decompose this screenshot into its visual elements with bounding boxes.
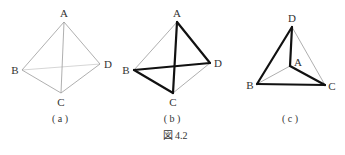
vertex-label-b: B	[122, 64, 129, 76]
edge-ca-highlighted	[173, 22, 177, 93]
edge-ab	[22, 22, 64, 70]
vertex-label-d: D	[104, 58, 112, 70]
edge-bd-highlighted	[257, 27, 292, 84]
edge-ad-highlighted	[177, 22, 210, 63]
vertex-label-c: C	[328, 80, 335, 92]
edge-bc-highlighted	[134, 70, 173, 93]
panel-sublabel-b: ( b )	[164, 113, 181, 125]
figure-4-2: A B C D ( a ) A B C D ( b )	[0, 0, 345, 155]
vertex-label-a: A	[294, 56, 302, 68]
panel-b: A B C D ( b )	[122, 7, 222, 125]
vertex-label-d: D	[288, 12, 296, 24]
vertex-label-b: B	[11, 64, 18, 76]
vertex-label-c: C	[57, 96, 64, 108]
panel-sublabel-a: ( a )	[52, 113, 68, 125]
edge-bd-hidden	[22, 64, 100, 70]
vertex-label-d: D	[214, 57, 222, 69]
vertex-label-a: A	[60, 7, 68, 19]
edge-ab	[134, 22, 177, 70]
panel-a: A B C D ( a )	[11, 7, 112, 125]
edge-cd	[173, 63, 210, 93]
panel-sublabel-c: ( c )	[282, 113, 298, 125]
tetrahedron-diagram: A B C D ( a ) A B C D ( b )	[0, 0, 345, 155]
figure-caption: 図 4.2	[163, 130, 188, 141]
edge-db-highlighted	[134, 63, 210, 70]
vertex-label-a: A	[173, 7, 181, 19]
edge-ac	[61, 22, 64, 93]
vertex-label-b: B	[246, 79, 253, 91]
vertex-label-c: C	[169, 96, 176, 108]
edge-cb-highlighted	[257, 84, 325, 85]
edge-bc	[22, 70, 61, 93]
edge-cd	[61, 64, 100, 93]
panel-c: D A B C ( c )	[246, 12, 335, 125]
edge-ad	[64, 22, 100, 64]
edge-da-highlighted	[290, 27, 292, 66]
